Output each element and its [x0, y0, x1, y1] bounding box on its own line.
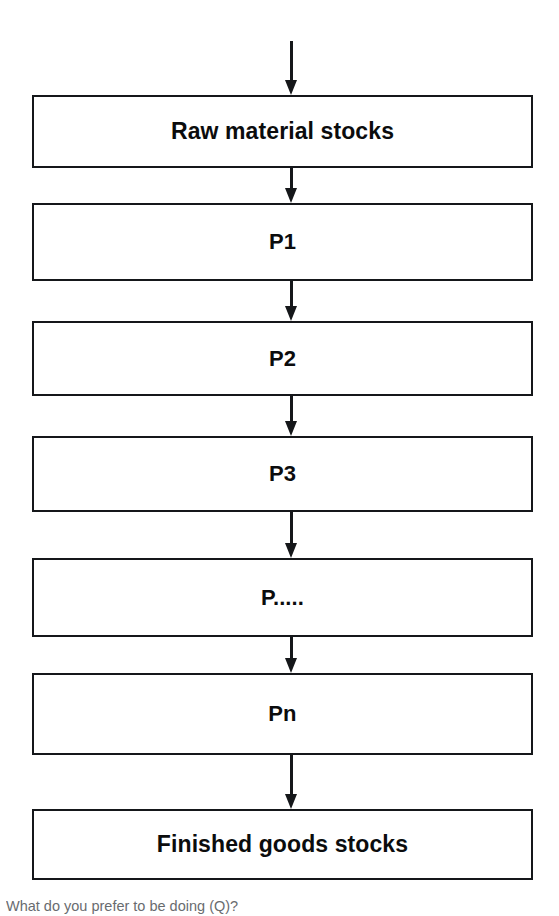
arrow-head — [285, 188, 297, 203]
node-label: Finished goods stocks — [157, 833, 408, 856]
arrow-p1-to-p2 — [285, 281, 298, 321]
arrow-shaft — [290, 512, 293, 543]
arrow-raw-material-stocks-to-p1 — [285, 168, 298, 203]
arrow-shaft — [290, 41, 293, 80]
arrow-input-to-raw-material-stocks — [285, 41, 298, 95]
flowchart-diagram: Raw material stocks P1 P2 P3 P..... Pn — [0, 0, 559, 916]
arrow-head — [285, 421, 297, 436]
arrow-head — [285, 658, 297, 673]
node-p2: P2 — [32, 321, 533, 396]
arrow-head — [285, 543, 297, 558]
node-finished-goods-stocks: Finished goods stocks — [32, 809, 533, 880]
node-p3: P3 — [32, 436, 533, 512]
arrow-p3-to-p-ellipsis — [285, 512, 298, 558]
node-label: P3 — [269, 463, 296, 485]
node-p1: P1 — [32, 203, 533, 281]
node-label: Pn — [268, 703, 296, 725]
node-pn: Pn — [32, 673, 533, 755]
arrow-head — [285, 80, 297, 95]
page-caption: What do you prefer to be doing (Q)? — [6, 896, 551, 916]
node-raw-material-stocks: Raw material stocks — [32, 95, 533, 168]
arrow-p2-to-p3 — [285, 396, 298, 436]
arrow-head — [285, 794, 297, 809]
page-caption-text: What do you prefer to be doing (Q)? — [6, 896, 238, 916]
arrow-head — [285, 306, 297, 321]
node-label: P1 — [269, 231, 296, 253]
arrow-shaft — [290, 396, 293, 421]
arrow-pn-to-finished-goods-stocks — [285, 755, 298, 809]
node-label: Raw material stocks — [171, 120, 394, 143]
arrow-shaft — [290, 637, 293, 658]
arrow-shaft — [290, 755, 293, 794]
arrow-shaft — [290, 168, 293, 188]
node-p-ellipsis: P..... — [32, 558, 533, 637]
node-label: P..... — [261, 587, 304, 609]
node-label: P2 — [269, 348, 296, 370]
arrow-p-ellipsis-to-pn — [285, 637, 298, 673]
arrow-shaft — [290, 281, 293, 306]
